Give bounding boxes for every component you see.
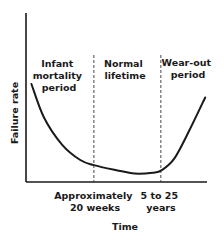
region-label-normal-lifetime: Normal lifetime (104, 58, 146, 81)
y-axis-label: Failure rate (9, 82, 20, 144)
region-label-infant-mortality: Infant mortality period (33, 58, 86, 93)
failure-rate-curve (31, 84, 205, 174)
bathtub-chart: Infant mortality period Normal lifetime … (0, 0, 224, 240)
x-axis-label: Time (112, 221, 138, 232)
region-label-wear-out: Wear-out period (162, 57, 215, 80)
tick-label-5-to-25-years: 5 to 25 years (141, 190, 182, 213)
tick-label-20-weeks: Approximately 20 weeks (54, 190, 136, 213)
